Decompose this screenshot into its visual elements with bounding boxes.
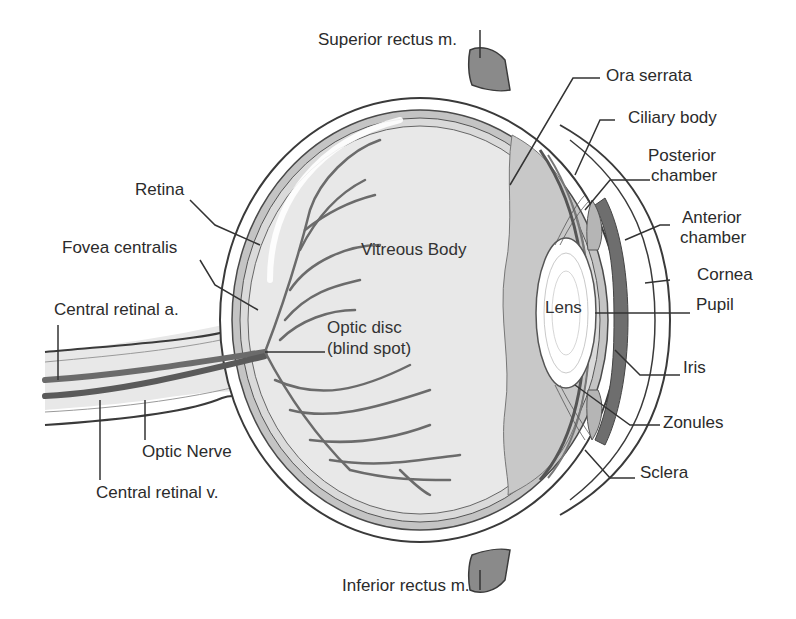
label-central-retinal-artery: Central retinal a. bbox=[54, 300, 179, 320]
label-sclera: Sclera bbox=[640, 463, 688, 483]
label-optic-disc-line1: Optic disc bbox=[327, 318, 402, 338]
label-inferior-rectus: Inferior rectus m. bbox=[342, 576, 470, 596]
label-zonules: Zonules bbox=[663, 413, 723, 433]
label-anterior-chamber-line1: Anterior bbox=[682, 208, 742, 228]
label-ciliary-body: Ciliary body bbox=[628, 108, 717, 128]
label-fovea-centralis: Fovea centralis bbox=[62, 238, 177, 258]
inferior-rectus-muscle bbox=[469, 549, 510, 592]
label-retina: Retina bbox=[135, 180, 184, 200]
label-lens: Lens bbox=[545, 298, 582, 318]
label-optic-disc-line2: (blind spot) bbox=[327, 339, 411, 359]
label-iris: Iris bbox=[683, 358, 706, 378]
label-vitreous-body: Vitreous Body bbox=[361, 240, 467, 260]
superior-rectus-muscle bbox=[469, 48, 510, 91]
label-central-retinal-vein: Central retinal v. bbox=[96, 483, 219, 503]
label-superior-rectus: Superior rectus m. bbox=[318, 30, 457, 50]
label-cornea: Cornea bbox=[697, 265, 753, 285]
label-pupil: Pupil bbox=[696, 295, 734, 315]
label-posterior-chamber-line1: Posterior bbox=[648, 146, 716, 166]
eye-anatomy-diagram: Superior rectus m. Ora serrata Ciliary b… bbox=[0, 0, 796, 619]
label-ora-serrata: Ora serrata bbox=[606, 66, 692, 86]
label-posterior-chamber-line2: chamber bbox=[651, 166, 717, 186]
label-anterior-chamber-line2: chamber bbox=[680, 228, 746, 248]
label-optic-nerve: Optic Nerve bbox=[142, 442, 232, 462]
